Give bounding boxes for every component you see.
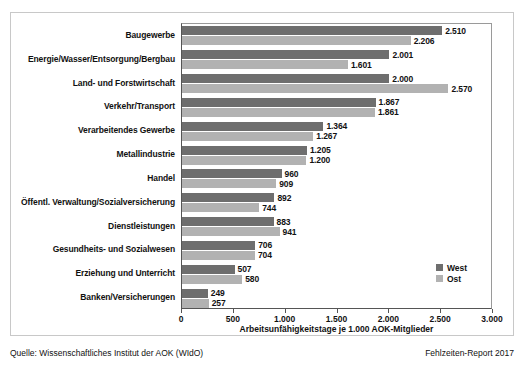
bar-ost: 744 [182,203,259,212]
bar-value-label: 249 [211,288,225,298]
bar-west: 960 [182,169,282,178]
legend-swatch-ost [436,275,443,282]
x-tick [233,309,234,313]
bar-value-label: 2.000 [392,74,413,84]
bar-west: 1.205 [182,146,307,155]
x-axis: 05001.0001.5002.0002.5003.000 [181,309,492,321]
bar-ost: 257 [182,299,209,308]
bar-west: 2.000 [182,74,389,83]
category-label: Verkehr/Transport [104,101,175,111]
x-tick-label: 2.500 [430,314,451,324]
x-tick [181,309,182,313]
legend-item-west: West [436,262,467,273]
bar-ost: 580 [182,275,242,284]
x-tick-label: 2.000 [378,314,399,324]
category-label: Erziehung und Unterricht [75,268,175,278]
bar-value-label: 960 [285,169,299,179]
bar-west: 1.867 [182,98,376,107]
bar-west: 1.364 [182,122,323,131]
category-label: Gesundheits- und Sozialwesen [53,244,175,254]
footer: Quelle: Wissenschaftliches Institut der … [10,342,514,364]
x-tick-label: 3.000 [481,314,502,324]
bar-value-label: 1.200 [309,155,330,165]
legend-swatch-west [436,264,443,271]
bar-ost: 1.861 [182,108,375,117]
bar-value-label: 1.364 [326,121,347,131]
bar-ost: 704 [182,251,255,260]
category-axis: BaugewerbeEnergie/Wasser/Entsorgung/Berg… [0,23,178,309]
bar-group: 960909 [182,167,491,191]
bar-ost: 1.601 [182,60,348,69]
bar-value-label: 1.867 [379,97,400,107]
category-label: Banken/Versicherungen [80,292,175,302]
x-tick [492,309,493,313]
bar-group: 2.0011.601 [182,48,491,72]
bar-group: 2.0002.570 [182,72,491,96]
category-label: Metallindustrie [117,149,175,159]
bar-group: 2.5102.206 [182,24,491,48]
bar-ost: 1.200 [182,156,306,165]
footer-source: Quelle: Wissenschaftliches Institut der … [10,348,203,358]
bar-value-label: 2.001 [392,50,413,60]
legend: West Ost [436,262,467,284]
bar-value-label: 704 [258,250,272,260]
bar-group: 1.8671.861 [182,96,491,120]
bar-value-label: 2.510 [445,26,466,36]
legend-label-west: West [447,263,467,273]
bar-value-label: 507 [238,264,252,274]
bar-west: 2.001 [182,50,389,59]
bar-ost: 2.206 [182,36,411,45]
bar-value-label: 2.570 [451,84,472,94]
x-tick [337,309,338,313]
bar-value-label: 883 [277,217,291,227]
bar-west: 883 [182,217,274,226]
bar-group: 892744 [182,191,491,215]
bar-value-label: 1.267 [316,131,337,141]
bar-value-label: 1.205 [310,145,331,155]
bar-value-label: 706 [258,240,272,250]
category-label: Öffentl. Verwaltung/Sozialversicherung [21,197,175,207]
category-label: Baugewerbe [125,30,175,40]
bar-group: 249257 [182,286,491,310]
bar-west: 2.510 [182,26,442,35]
x-tick-label: 0 [179,314,184,324]
bar-value-label: 257 [212,298,226,308]
bar-ost: 1.267 [182,132,313,141]
bar-value-label: 1.861 [378,107,399,117]
x-tick [440,309,441,313]
x-tick [388,309,389,313]
bar-ost: 2.570 [182,84,448,93]
category-label: Dienstleistungen [108,221,175,231]
x-tick-label: 500 [226,314,240,324]
bar-group: 1.2051.200 [182,143,491,167]
bar-group: 883941 [182,215,491,239]
footer-report: Fehlzeiten-Report 2017 [425,348,514,358]
bar-group: 706704 [182,239,491,263]
category-label: Energie/Wasser/Entsorgung/Bergbau [28,54,175,64]
bar-west: 249 [182,289,208,298]
bar-value-label: 892 [277,193,291,203]
bar-ost: 909 [182,179,276,188]
bar-value-label: 941 [283,227,297,237]
bar-ost: 941 [182,227,280,236]
bar-west: 706 [182,241,255,250]
bar-value-label: 2.206 [414,36,435,46]
legend-item-ost: Ost [436,273,467,284]
chart-figure: BaugewerbeEnergie/Wasser/Entsorgung/Berg… [0,0,524,370]
category-label: Verarbeitendes Gewerbe [78,125,175,135]
x-tick [285,309,286,313]
bar-group: 1.3641.267 [182,119,491,143]
bar-west: 507 [182,265,235,274]
x-tick-label: 1.000 [274,314,295,324]
bar-west: 892 [182,193,274,202]
bar-value-label: 1.601 [351,60,372,70]
category-label: Land- und Forstwirtschaft [73,78,175,88]
legend-label-ost: Ost [447,274,461,284]
x-tick-label: 1.500 [326,314,347,324]
category-label: Handel [147,173,175,183]
bar-value-label: 744 [262,203,276,213]
bar-value-label: 580 [245,274,259,284]
x-axis-title: Arbeitsunfähigkeitstage je 1.000 AOK-Mit… [181,324,492,334]
bar-value-label: 909 [279,179,293,189]
